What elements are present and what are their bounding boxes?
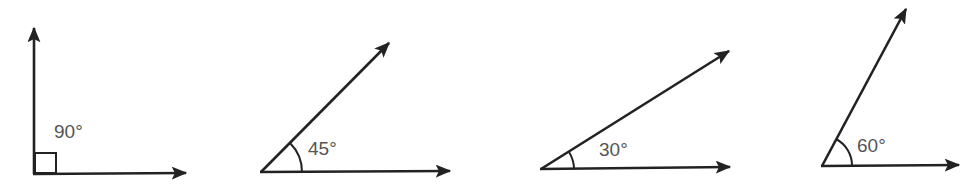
angle-45-arc-icon (290, 143, 302, 172)
angle-90-label: 90° (54, 121, 83, 142)
angle-30-base-ray (540, 167, 730, 169)
right-angle-marker-icon (35, 153, 56, 173)
angle-30-upper-ray (541, 51, 729, 169)
angle-60-arc-icon (836, 139, 852, 166)
angle-45-base-ray (260, 171, 450, 172)
angle-60-base-ray (821, 165, 959, 166)
angle-30-arc-icon (569, 152, 574, 168)
angle-60-label: 60° (857, 135, 886, 156)
angle-45-figure: 45° (260, 43, 450, 172)
angle-30-figure: 30° (540, 51, 730, 169)
angle-30-label: 30° (599, 139, 628, 160)
angle-90-figure: 90° (33, 28, 186, 174)
angle-60-figure: 60° (821, 9, 959, 166)
angles-diagram: 90° 45° 30° 60° (0, 0, 973, 188)
angle-45-label: 45° (308, 138, 337, 159)
